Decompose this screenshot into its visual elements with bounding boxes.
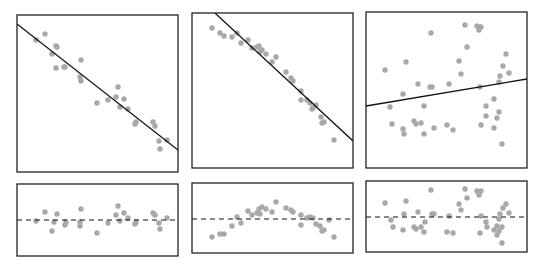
data-point — [422, 219, 427, 224]
data-point — [477, 230, 482, 235]
data-point — [483, 103, 488, 108]
data-point — [209, 234, 214, 239]
data-point — [496, 109, 501, 114]
panel-top-left — [17, 15, 178, 172]
data-point — [464, 195, 469, 200]
data-point — [418, 120, 423, 125]
data-point — [121, 210, 126, 215]
data-point — [387, 104, 392, 109]
data-point — [382, 67, 387, 72]
data-point — [499, 240, 504, 245]
scatter-plot-grid — [0, 0, 544, 269]
data-point — [257, 211, 262, 216]
data-point — [428, 30, 433, 35]
panel-top-right — [366, 12, 527, 168]
data-point — [94, 230, 99, 235]
data-point — [113, 94, 118, 99]
data-point — [400, 227, 405, 232]
data-point — [450, 127, 455, 132]
data-point — [42, 31, 47, 36]
data-point — [229, 223, 234, 228]
data-point — [458, 71, 463, 76]
data-point — [499, 224, 504, 229]
data-point — [478, 122, 483, 127]
data-point — [263, 206, 268, 211]
data-point — [331, 234, 336, 239]
data-point — [491, 96, 496, 101]
data-point — [290, 209, 295, 214]
data-point — [429, 84, 434, 89]
data-point — [283, 69, 288, 74]
data-point — [500, 63, 505, 68]
data-point — [78, 206, 83, 211]
data-point — [478, 213, 483, 218]
data-point — [506, 70, 511, 75]
data-point — [309, 106, 314, 111]
data-point — [499, 141, 504, 146]
data-point — [298, 212, 303, 217]
panel-bottom-middle-residuals — [192, 183, 353, 253]
data-point — [483, 113, 488, 118]
data-point — [49, 228, 54, 233]
data-point — [273, 54, 278, 59]
data-point — [415, 81, 420, 86]
data-point — [401, 211, 406, 216]
data-point — [415, 209, 420, 214]
data-point — [221, 33, 226, 38]
data-point — [418, 224, 423, 229]
data-point — [94, 100, 99, 105]
plot-frame — [17, 15, 178, 172]
data-point — [209, 25, 214, 30]
data-point — [494, 115, 499, 120]
data-point — [152, 123, 157, 128]
data-point — [33, 218, 38, 223]
data-point — [121, 96, 126, 101]
data-point — [444, 122, 449, 127]
data-point — [152, 212, 157, 217]
data-point — [462, 22, 467, 27]
data-point — [503, 51, 508, 56]
data-point — [42, 209, 47, 214]
data-point — [446, 81, 451, 86]
data-point — [238, 40, 243, 45]
regression-line — [215, 13, 353, 141]
data-point — [413, 226, 418, 231]
data-point — [413, 121, 418, 126]
data-point — [321, 119, 326, 124]
panel-bottom-left-residuals — [17, 184, 178, 256]
data-point — [496, 216, 501, 221]
data-point — [238, 220, 243, 225]
regression-line — [17, 24, 178, 150]
data-point — [326, 217, 331, 222]
data-point — [456, 201, 461, 206]
data-point — [382, 200, 387, 205]
data-point — [61, 64, 66, 69]
data-point — [389, 121, 394, 126]
data-point — [494, 223, 499, 228]
data-point — [497, 211, 502, 216]
data-point — [484, 224, 489, 229]
data-point — [431, 125, 436, 130]
data-point — [78, 78, 83, 83]
data-point — [298, 97, 303, 102]
panel-top-middle — [192, 13, 353, 168]
data-point — [54, 44, 59, 49]
data-point — [310, 215, 315, 220]
data-point — [497, 73, 502, 78]
data-point — [456, 58, 461, 63]
data-point — [478, 24, 483, 29]
data-point — [421, 131, 426, 136]
data-point — [156, 138, 161, 143]
data-point — [462, 186, 467, 191]
data-point — [506, 210, 511, 215]
data-point — [388, 217, 393, 222]
data-point — [115, 203, 120, 208]
data-point — [446, 213, 451, 218]
data-point — [133, 119, 138, 124]
data-point — [450, 230, 455, 235]
data-point — [78, 57, 83, 62]
data-point — [229, 34, 234, 39]
data-point — [77, 223, 82, 228]
data-point — [115, 84, 120, 89]
data-point — [318, 114, 323, 119]
